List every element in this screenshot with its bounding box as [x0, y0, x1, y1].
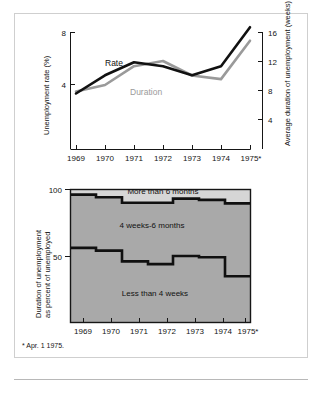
line-chart-xtick-1975: 1975* [241, 154, 262, 163]
line-chart-xtick-1969: 1969 [67, 154, 85, 163]
stacked-chart-xtick-1972: 1972 [158, 327, 176, 336]
stacked-chart-ytick-label-100: 100 [49, 186, 63, 195]
stacked-chart-y-axis-title-line2: as percent of unemployed [43, 232, 52, 318]
line-chart-group: 8 4 16 12 8 4 1969 1970 1971 1972 1973 1… [42, 1, 292, 163]
charts-svg: 8 4 16 12 8 4 1969 1970 1971 1972 1973 1… [0, 0, 323, 394]
band-label-less-than-4weeks: Less than 4 weeks [122, 289, 188, 298]
stacked-area-chart-group: 100 50 1969 1970 1971 1972 1973 1974 197… [34, 186, 258, 337]
stacked-chart-xtick-1975: 1975* [238, 327, 259, 336]
stacked-chart-xtick-1974: 1974 [214, 327, 232, 336]
line-chart-xtick-1971: 1971 [125, 154, 143, 163]
line-chart-xtick-1970: 1970 [96, 154, 114, 163]
band-label-4weeks-6months: 4 weeks-6 months [120, 221, 185, 230]
line-chart-y2tick-4: 4 [268, 116, 273, 125]
line-chart-ytick-4: 4 [62, 81, 67, 90]
line-chart-y2tick-12: 12 [268, 58, 277, 67]
stacked-chart-xtick-1971: 1971 [130, 327, 148, 336]
figure-container: 8 4 16 12 8 4 1969 1970 1971 1972 1973 1… [0, 0, 323, 394]
line-chart-xtick-1974: 1974 [212, 154, 230, 163]
series-label-duration: Duration [130, 87, 162, 97]
stacked-chart-ytick-label-50: 50 [53, 253, 62, 262]
line-chart-xtick-1973: 1973 [183, 154, 201, 163]
stacked-chart-xtick-1970: 1970 [102, 327, 120, 336]
line-chart-y2tick-8: 8 [268, 87, 273, 96]
line-chart-ytick-8: 8 [62, 29, 67, 38]
line-chart-y2tick-16: 16 [268, 29, 277, 38]
band-label-more-than-6-months: More than 6 months [127, 187, 198, 196]
stacked-chart-y-axis-title-line1: Duration of unemployment [34, 229, 43, 318]
figure-footnote: * Apr. 1 1975. [22, 342, 64, 350]
line-chart-x-ticks [77, 145, 251, 150]
line-chart-xtick-1972: 1972 [154, 154, 172, 163]
line-chart-y2-axis-title-line1: Average duration of unemployment (weeks) [283, 1, 292, 146]
line-chart-right-ticks [258, 33, 263, 120]
line-chart-y-axis-title: Unemployment rate (%) [42, 55, 51, 135]
stacked-chart-xtick-1973: 1973 [186, 327, 204, 336]
stacked-chart-xtick-1969: 1969 [74, 327, 92, 336]
series-label-rate: Rate [105, 58, 123, 68]
